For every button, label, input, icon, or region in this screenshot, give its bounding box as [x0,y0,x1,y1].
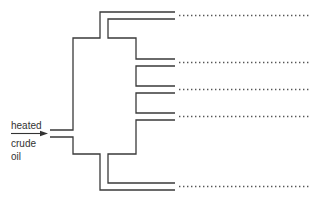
column-inner-wall-upper [108,19,175,59]
column-side-chamber-2 [136,93,175,113]
input-label-heated: heated [11,120,42,131]
column-side-chamber-1 [136,66,175,86]
input-label-crude: crude [11,138,36,149]
column-inner-wall-lower [108,120,175,183]
input-arrow-icon [11,131,48,136]
column-outer-wall-bottom [50,137,175,190]
input-label-oil: oil [11,151,21,162]
fractionating-column-diagram: heated crude oil [0,0,319,201]
column-outer-wall-top [50,12,175,130]
